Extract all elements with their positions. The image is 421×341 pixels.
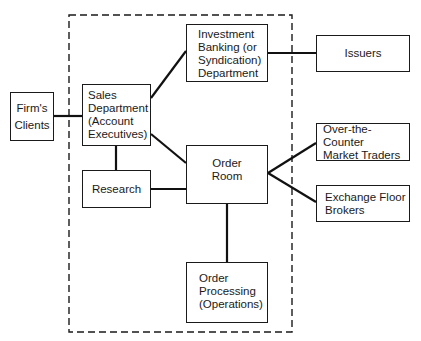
node-sales-department: Sales Department (Account Executives)	[82, 84, 151, 146]
edge-sales-investment-banking	[151, 51, 186, 98]
node-firms-clients: Firm's Clients	[10, 92, 54, 141]
node-order-room: Order Room	[186, 145, 268, 204]
node-label: Issuers	[344, 47, 381, 60]
node-label: Firm's Clients	[14, 100, 49, 134]
node-exchange-floor-brokers: Exchange Floor Brokers	[316, 185, 410, 222]
node-label: Order Room	[187, 157, 267, 183]
node-label: Order Processing (Operations)	[199, 272, 263, 311]
node-label: Sales Department (Account Executives)	[88, 89, 146, 141]
node-label: Over-the-Counter Market Traders	[317, 123, 409, 162]
edge-sales-order-room	[151, 134, 186, 163]
node-label: Research	[92, 183, 141, 196]
node-label: Investment Banking (or Syndication) Depa…	[198, 28, 263, 80]
node-issuers: Issuers	[316, 35, 410, 72]
node-research: Research	[82, 170, 151, 208]
node-investment-banking: Investment Banking (or Syndication) Depa…	[186, 24, 268, 82]
node-otc-market-traders: Over-the-Counter Market Traders	[316, 123, 410, 161]
node-order-processing: Order Processing (Operations)	[186, 262, 268, 323]
node-label: Exchange Floor Brokers	[317, 191, 406, 217]
